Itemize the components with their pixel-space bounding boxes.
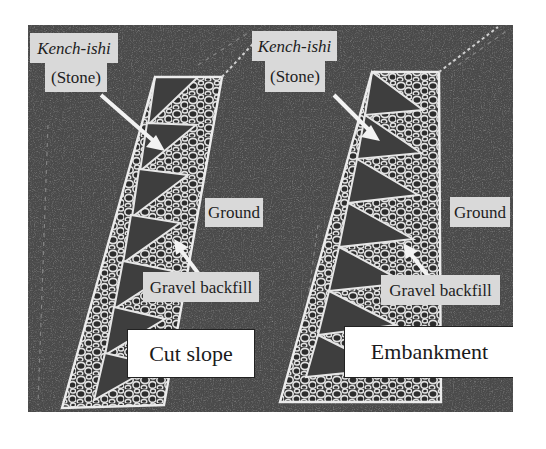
wall-cross-section-photo: Kench-ishi (Stone) Ground Gravel backfil…: [28, 25, 513, 412]
left-stone-translation-label: (Stone): [45, 62, 107, 92]
embankment-caption: Embankment: [344, 326, 513, 378]
right-stone-name-label: Kench-ishi: [252, 31, 337, 61]
right-stone-translation-label: (Stone): [265, 60, 325, 92]
right-ground-label: Ground: [450, 197, 510, 227]
right-gravel-backfill-label: Gravel backfill: [381, 275, 500, 305]
left-gravel-backfill-label: Gravel backfill: [143, 272, 259, 302]
left-stone-name-label: Kench-ishi: [30, 33, 118, 63]
left-ground-label: Ground: [205, 198, 263, 227]
cut-slope-caption: Cut slope: [127, 329, 255, 378]
